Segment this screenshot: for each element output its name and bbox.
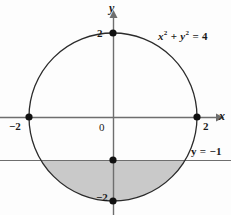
circle-eq-plus: + — [171, 30, 178, 42]
circle-eq-y-exponent: 2 — [186, 29, 190, 37]
origin-label: 0 — [99, 122, 105, 133]
x-tick-label-negative-2: −2 — [9, 121, 21, 132]
point-marker-right — [193, 113, 200, 120]
y-tick-label-positive-2: 2 — [97, 28, 103, 39]
math-figure-circle-shaded-segment: y x 2 −2 −2 2 0 x2 + y2 = 4 y = −1 — [0, 0, 231, 215]
line-equation-label: y = −1 — [191, 146, 222, 157]
point-marker-chord-center — [109, 156, 116, 163]
y-tick-label-negative-2: −2 — [96, 192, 108, 203]
circle-eq-x-exponent: 2 — [164, 29, 168, 37]
x-tick-label-positive-2: 2 — [203, 121, 209, 132]
point-marker-top — [109, 29, 116, 36]
circle-equation-label: x2 + y2 = 4 — [158, 31, 208, 42]
shaded-region-below-line — [20, 160, 210, 215]
point-marker-bottom — [109, 197, 116, 204]
x-axis-label: x — [219, 110, 225, 122]
point-marker-left — [25, 113, 32, 120]
y-axis-label: y — [109, 2, 114, 14]
circle-eq-equals-four: = 4 — [192, 30, 207, 42]
